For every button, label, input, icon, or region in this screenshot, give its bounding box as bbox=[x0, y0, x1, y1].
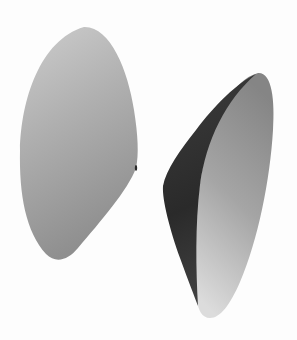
left-surface-edge-mark bbox=[135, 165, 137, 171]
surfaces-illustration bbox=[0, 0, 297, 340]
right-surface-outer bbox=[195, 73, 274, 318]
left-surface bbox=[20, 27, 138, 260]
rendered-surfaces-image bbox=[0, 0, 297, 340]
